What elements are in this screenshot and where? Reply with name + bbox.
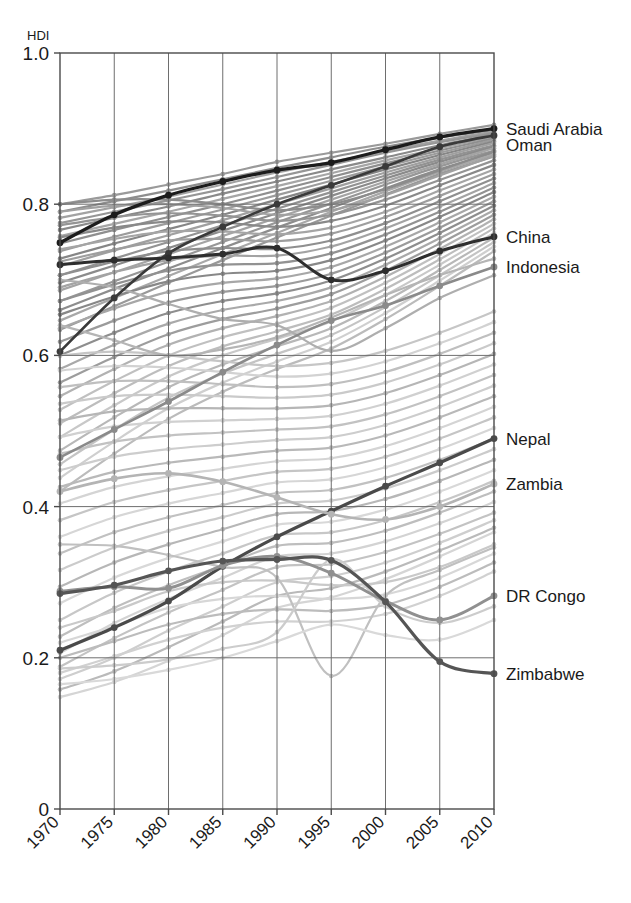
data-point-marker <box>274 341 281 348</box>
data-point-marker <box>328 276 335 283</box>
data-point-marker <box>274 494 281 501</box>
data-point-marker <box>165 598 172 605</box>
data-point-marker <box>111 211 118 218</box>
data-point-marker <box>274 556 281 563</box>
data-point-marker <box>165 192 172 199</box>
y-tick-label: 0.8 <box>23 194 49 215</box>
data-point-marker <box>274 167 281 174</box>
data-point-marker <box>111 624 118 631</box>
data-point-marker <box>328 159 335 166</box>
data-point-marker <box>219 251 226 258</box>
data-point-marker <box>436 134 443 141</box>
data-point-marker <box>111 582 118 589</box>
data-point-marker <box>436 143 443 150</box>
chart-canvas: 00.20.40.60.81.0 19701975198019851990199… <box>0 0 631 903</box>
data-point-marker <box>219 478 226 485</box>
data-point-marker <box>382 483 389 490</box>
data-point-marker <box>111 475 118 482</box>
series-callout-label: Zambia <box>506 475 563 494</box>
series-callout-label: Nepal <box>506 430 550 449</box>
data-point-marker <box>382 516 389 523</box>
data-point-marker <box>382 302 389 309</box>
data-point-marker <box>274 201 281 208</box>
data-point-marker <box>328 182 335 189</box>
data-point-marker <box>382 163 389 170</box>
data-point-marker <box>165 398 172 405</box>
data-point-marker <box>436 282 443 289</box>
data-point-marker <box>328 557 335 564</box>
data-point-marker <box>219 178 226 185</box>
hdi-line-chart: 00.20.40.60.81.0 19701975198019851990199… <box>0 0 631 903</box>
data-point-marker <box>165 254 172 261</box>
data-point-marker <box>436 248 443 255</box>
data-point-marker <box>165 567 172 574</box>
y-tick-label: 0.6 <box>23 345 49 366</box>
data-point-marker <box>328 317 335 324</box>
data-point-marker <box>111 257 118 264</box>
data-point-marker <box>436 503 443 510</box>
data-point-marker <box>382 598 389 605</box>
data-point-marker <box>436 617 443 624</box>
data-point-marker <box>382 146 389 153</box>
data-point-marker <box>382 267 389 274</box>
data-point-marker <box>436 658 443 665</box>
data-point-marker <box>165 585 172 592</box>
data-point-marker <box>436 459 443 466</box>
series-callout-label: Zimbabwe <box>506 665 584 684</box>
series-callout-label: DR Congo <box>506 587 585 606</box>
series-callout-label: China <box>506 228 551 247</box>
series-callout-label: Indonesia <box>506 258 580 277</box>
data-point-marker <box>111 295 118 302</box>
series-callout-label: Oman <box>506 136 552 155</box>
data-point-marker <box>219 223 226 230</box>
data-point-marker <box>219 369 226 376</box>
data-point-marker <box>274 245 281 252</box>
data-point-marker <box>328 570 335 577</box>
data-point-marker <box>274 533 281 540</box>
y-tick-label: 1.0 <box>23 43 49 64</box>
data-point-marker <box>219 558 226 565</box>
y-tick-label: 0.2 <box>23 648 49 669</box>
y-axis-title: HDI <box>27 28 49 43</box>
data-point-marker <box>165 470 172 477</box>
y-tick-label: 0.4 <box>23 497 50 518</box>
data-point-marker <box>328 511 335 518</box>
data-point-marker <box>111 426 118 433</box>
